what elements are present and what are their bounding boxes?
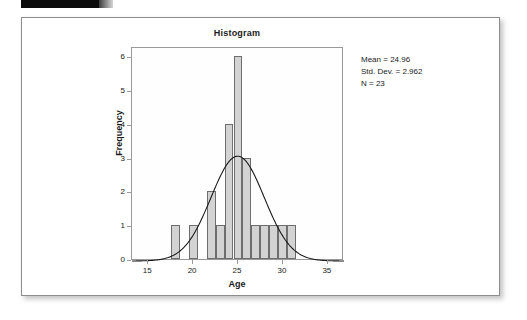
x-tick-mark bbox=[147, 260, 148, 264]
y-tick-label: 2 bbox=[109, 188, 125, 196]
y-tick-label: 1 bbox=[109, 222, 125, 230]
figure-card: Histogram Frequency 0123456 1520253035 A… bbox=[21, 17, 500, 296]
y-tick-label: 3 bbox=[109, 155, 125, 163]
y-tick-mark bbox=[127, 260, 131, 261]
x-tick-label: 30 bbox=[270, 267, 294, 275]
normal-distribution-curve bbox=[132, 48, 342, 259]
y-tick-label: 6 bbox=[109, 53, 125, 61]
page-corner-marker bbox=[21, 0, 99, 8]
curve-path bbox=[132, 156, 344, 261]
x-tick-label: 20 bbox=[180, 267, 204, 275]
x-tick-mark bbox=[282, 260, 283, 264]
plot-inner bbox=[132, 48, 342, 259]
stat-n: N = 23 bbox=[361, 78, 422, 90]
statistics-annotation: Mean = 24.96 Std. Dev. = 2.962 N = 23 bbox=[361, 54, 422, 90]
x-tick-label: 35 bbox=[315, 267, 339, 275]
stat-std-dev: Std. Dev. = 2.962 bbox=[361, 66, 422, 78]
y-tick-label: 0 bbox=[109, 256, 125, 264]
histogram-chart: Histogram Frequency 0123456 1520253035 A… bbox=[22, 18, 501, 297]
x-tick-label: 15 bbox=[135, 267, 159, 275]
y-tick-label: 5 bbox=[109, 87, 125, 95]
plot-area bbox=[131, 47, 343, 260]
x-tick-label: 25 bbox=[225, 267, 249, 275]
chart-title: Histogram bbox=[131, 28, 343, 38]
x-axis-label: Age bbox=[131, 279, 343, 289]
x-tick-mark bbox=[237, 260, 238, 264]
page-corner-marker-fade bbox=[99, 0, 113, 8]
stat-mean: Mean = 24.96 bbox=[361, 54, 422, 66]
x-tick-mark bbox=[192, 260, 193, 264]
y-tick-label: 4 bbox=[109, 121, 125, 129]
x-tick-mark bbox=[327, 260, 328, 264]
y-axis-label: Frequency bbox=[114, 110, 124, 156]
